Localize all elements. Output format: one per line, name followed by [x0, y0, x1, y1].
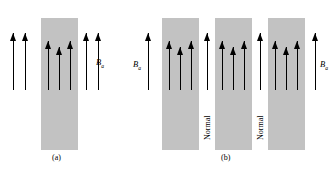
arrow-head-icon — [257, 33, 263, 41]
arrow-head-icon — [294, 41, 300, 49]
arrow-head-icon — [219, 41, 225, 49]
arrow-head-icon — [230, 47, 236, 55]
arrow-head-icon — [10, 33, 16, 41]
arrow-head-icon — [22, 33, 28, 41]
panel-a-caption: (a) — [52, 154, 61, 162]
field-subscript: a — [138, 65, 141, 71]
arrow-shaft — [260, 33, 261, 90]
arrow-head-icon — [83, 33, 89, 41]
applied-field-label-b-left: Ba — [133, 60, 141, 71]
field-subscript: a — [325, 65, 328, 71]
applied-field-label-b-right: Ba — [320, 60, 328, 71]
applied-field-label-a: Ba — [96, 58, 104, 69]
arrow-head-icon — [67, 41, 73, 49]
arrow-head-icon — [312, 33, 318, 41]
arrow-head-icon — [204, 33, 210, 41]
normal-region-label-1: Normal — [204, 116, 212, 140]
arrow-head-icon — [241, 41, 247, 49]
normal-region-label-2: Normal — [257, 116, 265, 140]
physics-figure: Ba (a) — [0, 0, 332, 174]
arrow-shaft — [315, 33, 316, 90]
arrow-shaft — [148, 33, 149, 90]
arrow-shaft — [86, 33, 87, 90]
arrow-head-icon — [283, 47, 289, 55]
arrow-shaft — [13, 33, 14, 90]
arrow-shaft — [25, 33, 26, 90]
arrow-head-icon — [95, 33, 101, 41]
arrow-head-icon — [188, 41, 194, 49]
arrow-head-icon — [56, 47, 62, 55]
arrow-shaft — [207, 33, 208, 90]
panel-b-caption: (b) — [221, 154, 230, 162]
arrow-head-icon — [272, 41, 278, 49]
arrow-head-icon — [166, 41, 172, 49]
arrow-head-icon — [145, 33, 151, 41]
field-subscript: a — [101, 63, 104, 69]
arrow-head-icon — [45, 41, 51, 49]
arrow-head-icon — [177, 47, 183, 55]
